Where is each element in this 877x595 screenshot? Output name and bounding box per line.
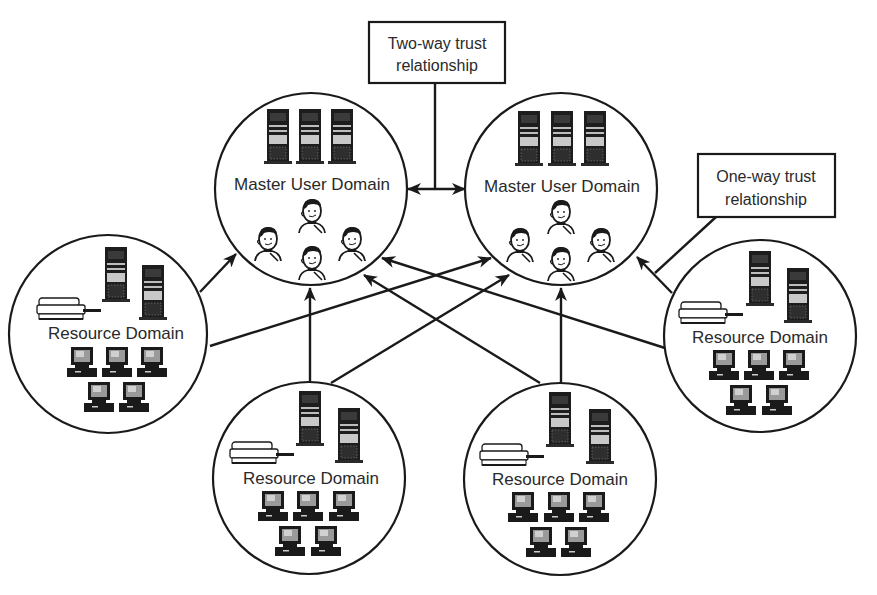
server-icon: [515, 111, 543, 166]
workstation-icon: [526, 527, 556, 557]
workstation-icon: [329, 491, 359, 521]
domain-label: Resource Domain: [492, 470, 628, 489]
workstation-icon: [779, 350, 809, 380]
server-icon: [264, 109, 292, 164]
workstation-icon: [311, 526, 341, 556]
server-icon: [548, 111, 576, 166]
server-icon: [581, 111, 609, 166]
one-way-trust-label-line2: relationship: [725, 191, 807, 208]
server-icon: [102, 247, 130, 302]
arrow-resource-bottom-right-to-master-left: [364, 275, 540, 383]
server-icon: [546, 392, 574, 447]
workstation-icon: [119, 382, 149, 412]
two-way-trust-label-line2: relationship: [396, 57, 478, 74]
domain-label: Resource Domain: [692, 328, 828, 347]
server-icon: [139, 265, 167, 320]
trust-diagram: Two-way trust relationship One-way trust…: [0, 0, 877, 595]
workstation-icon: [102, 347, 132, 377]
workstation-icon: [762, 385, 792, 415]
resource-domain-bottom-right: Resource Domain: [464, 383, 656, 575]
server-icon: [296, 391, 324, 446]
workstation-icon: [67, 347, 97, 377]
domain-label: Resource Domain: [48, 324, 184, 343]
workstation-icon: [508, 492, 538, 522]
arrow-resource-left-to-master-left: [200, 254, 236, 292]
server-icon: [784, 268, 812, 323]
workstation-icon: [744, 350, 774, 380]
workstation-icon: [293, 491, 323, 521]
workstation-icon: [258, 491, 288, 521]
workstation-icon: [726, 385, 756, 415]
server-icon: [296, 109, 324, 164]
master-user-domain-right: Master User Domain: [465, 93, 657, 285]
workstation-icon: [709, 350, 739, 380]
arrow-resource-bottom-left-to-master-right: [331, 275, 509, 383]
workstation-icon: [579, 492, 609, 522]
workstation-icon: [84, 382, 114, 412]
workstation-icon: [561, 527, 591, 557]
server-icon: [328, 109, 356, 164]
workstation-icon: [137, 347, 167, 377]
server-icon: [335, 408, 363, 463]
domain-label: Resource Domain: [243, 469, 379, 488]
two-way-trust-label-line1: Two-way trust: [388, 35, 487, 52]
domain-label: Master User Domain: [484, 177, 640, 196]
server-icon: [746, 251, 774, 306]
master-user-domain-left: Master User Domain: [215, 93, 407, 285]
resource-domain-bottom-left: Resource Domain: [213, 382, 405, 574]
domain-label: Master User Domain: [234, 175, 390, 194]
workstation-icon: [544, 492, 574, 522]
one-way-trust-label-line1: One-way trust: [716, 168, 816, 185]
server-icon: [586, 409, 614, 464]
resource-domain-right: Resource Domain: [664, 240, 856, 432]
resource-domain-left: Resource Domain: [9, 235, 207, 433]
workstation-icon: [275, 526, 305, 556]
